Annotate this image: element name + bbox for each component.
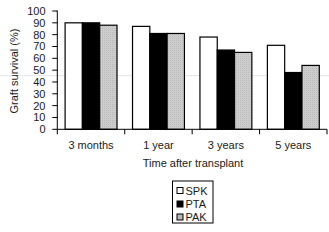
y-tick-label: 50 (33, 64, 45, 76)
x-category-label: 5 years (275, 139, 312, 151)
bar-spk (65, 23, 82, 129)
bar-group (267, 45, 319, 129)
bar-pak (302, 65, 319, 129)
graft-survival-bar-chart: 01020304050607080901003 months1 year3 ye… (0, 0, 329, 232)
y-tick-label: 80 (33, 29, 45, 41)
legend: SPKPTAPAK (173, 181, 214, 223)
legend-swatch-icon (177, 188, 183, 194)
bar-spk (200, 37, 217, 129)
y-tick-label: 60 (33, 52, 45, 64)
bar-pta (82, 23, 99, 129)
bar-spk (267, 45, 284, 129)
y-tick-label: 0 (39, 123, 45, 135)
y-tick-label: 40 (33, 76, 45, 88)
bar-spk (133, 26, 150, 129)
bar-pta (285, 73, 302, 130)
x-axis-title: Time after transplant (143, 157, 243, 169)
bar-group (133, 26, 185, 129)
bar-pta (150, 33, 167, 129)
legend-label: SPK (186, 185, 209, 197)
x-category-label: 1 year (143, 139, 174, 151)
y-tick-label: 100 (27, 5, 45, 17)
y-tick-label: 30 (33, 88, 45, 100)
bar-group (65, 23, 117, 129)
legend-label: PAK (186, 211, 208, 223)
bar-group (200, 37, 252, 129)
y-axis-title: Graft survival (%) (8, 29, 20, 114)
bar-pak (167, 33, 184, 129)
y-tick-label: 20 (33, 100, 45, 112)
legend-swatch-icon (177, 214, 183, 220)
y-tick-label: 90 (33, 17, 45, 29)
x-category-label: 3 months (68, 139, 114, 151)
y-tick-label: 10 (33, 111, 45, 123)
y-tick-label: 70 (33, 40, 45, 52)
legend-label: PTA (186, 198, 207, 210)
bar-pak (235, 52, 252, 129)
bar-pta (217, 50, 234, 129)
bar-pak (100, 25, 117, 129)
x-category-label: 3 years (208, 139, 245, 151)
legend-swatch-icon (177, 201, 183, 207)
